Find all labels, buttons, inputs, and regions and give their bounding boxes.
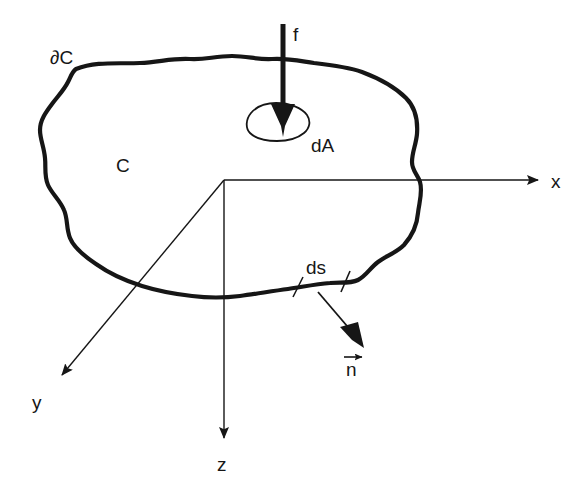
figure-root: ∂C C f dA ds n x y z bbox=[0, 0, 587, 489]
normal-label: n bbox=[346, 359, 357, 380]
axis-x-label: x bbox=[551, 171, 561, 192]
continuum-domain-diagram: ∂C C f dA ds n x y z bbox=[0, 0, 587, 489]
arc-element-label: ds bbox=[306, 257, 326, 278]
region-boundary-group bbox=[40, 56, 421, 298]
boundary-curve bbox=[40, 56, 421, 298]
axis-y-label: y bbox=[32, 392, 42, 413]
axis-z-label: z bbox=[217, 454, 227, 475]
normal-arrow-group bbox=[318, 292, 364, 348]
coordinate-axes-group bbox=[62, 180, 538, 438]
force-arrow-head bbox=[271, 104, 295, 137]
boundary-label: ∂C bbox=[50, 47, 73, 68]
normal-arrow-head bbox=[340, 322, 364, 348]
force-arrow-group bbox=[271, 24, 295, 137]
force-label: f bbox=[293, 24, 299, 45]
area-element-label: dA bbox=[311, 135, 335, 156]
region-label: C bbox=[116, 155, 130, 176]
axis-y-line bbox=[62, 180, 224, 375]
